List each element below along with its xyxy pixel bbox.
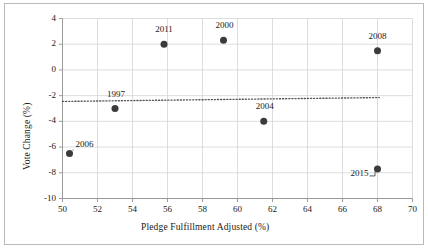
y-tick-label: 0 [30, 64, 56, 74]
x-tick-label: 50 [50, 204, 76, 214]
data-point-label: 2000 [213, 20, 237, 30]
data-point-marker [374, 165, 381, 172]
data-point-marker [112, 105, 119, 112]
data-point-label: 1997 [104, 89, 128, 99]
y-tick-label: 4 [30, 13, 56, 23]
data-point-label: 2006 [73, 139, 97, 149]
y-tick-label: -4 [30, 115, 56, 125]
data-point-label: 2008 [366, 31, 390, 41]
x-tick-label: 66 [330, 204, 356, 214]
y-tick-label: 2 [30, 38, 56, 48]
x-tick-label: 64 [295, 204, 321, 214]
x-tick-label: 68 [365, 204, 391, 214]
x-tick-label: 58 [190, 204, 216, 214]
x-tick-label: 70 [400, 204, 426, 214]
data-point-marker [220, 37, 227, 44]
data-point-label: 2015 [348, 168, 372, 178]
y-axis-title: Vote Change (%) [22, 102, 32, 170]
data-point-markers-group [66, 37, 381, 173]
x-tick-label: 60 [225, 204, 251, 214]
y-tick-label: -8 [30, 167, 56, 177]
data-point-marker [374, 47, 381, 54]
y-tick-label: -6 [30, 141, 56, 151]
label-leader-lines [73, 150, 376, 176]
data-point-marker [260, 118, 267, 125]
y-tick-label: -2 [30, 90, 56, 100]
data-point-label: 2004 [253, 101, 277, 111]
data-point-marker [66, 150, 73, 157]
x-tick-label: 62 [260, 204, 286, 214]
y-tick-label: -10 [30, 193, 56, 203]
x-axis-title: Pledge Fulfillment Adjusted (%) [141, 222, 269, 232]
x-tick-label: 54 [120, 204, 146, 214]
chart-figure: Vote Change (%) Pledge Fulfillment Adjus… [0, 0, 428, 249]
data-point-label: 2011 [152, 24, 176, 34]
data-point-marker [161, 41, 168, 48]
x-tick-label: 52 [85, 204, 111, 214]
x-tick-label: 56 [155, 204, 181, 214]
